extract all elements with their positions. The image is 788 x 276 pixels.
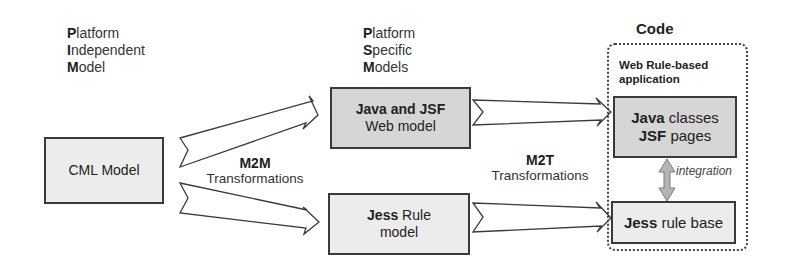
m2t-title: M2T [484,152,596,168]
m2t-arrow-to-java-classes [473,98,611,126]
app-label-line2: application [619,72,708,86]
app-label-line1: Web Rule-based [619,58,708,72]
m2m-subtitle: Transformations [200,171,310,187]
jess-title: Jess [367,207,398,223]
java-jsf-title: Java and JSF [356,101,446,118]
java-jsf-web-model-box: Java and JSF Web model [330,87,471,149]
rule-label: Rule [398,207,431,223]
cml-model-label: CML Model [68,162,139,179]
m2t-arrow-to-jess-base [473,202,611,232]
web-model-label: Web model [365,118,436,135]
pages-label: pages [666,127,711,144]
rule-base-label: rule base [657,214,723,231]
cml-model-box: CML Model [44,137,164,204]
jsf-label: JSF [639,127,667,144]
m2t-subtitle: Transformations [484,168,596,184]
web-rule-based-application-label: Web Rule-based application [619,58,708,86]
jess-rule-model-box: Jess Rule model [328,193,470,255]
m2m-label: M2M Transformations [200,155,310,187]
jess-base-title: Jess [624,214,657,231]
integration-label: integration [676,164,732,178]
model-label: model [380,224,418,241]
jess-rule-base-box: Jess rule base [611,201,736,244]
m2m-title: M2M [200,155,310,171]
m2m-arrow-to-jess-model [180,183,319,234]
classes-label: classes [665,109,719,126]
java-label: Java [631,109,664,126]
java-classes-jsf-pages-box: Java classes JSF pages [613,96,737,158]
m2t-label: M2T Transformations [484,152,596,184]
